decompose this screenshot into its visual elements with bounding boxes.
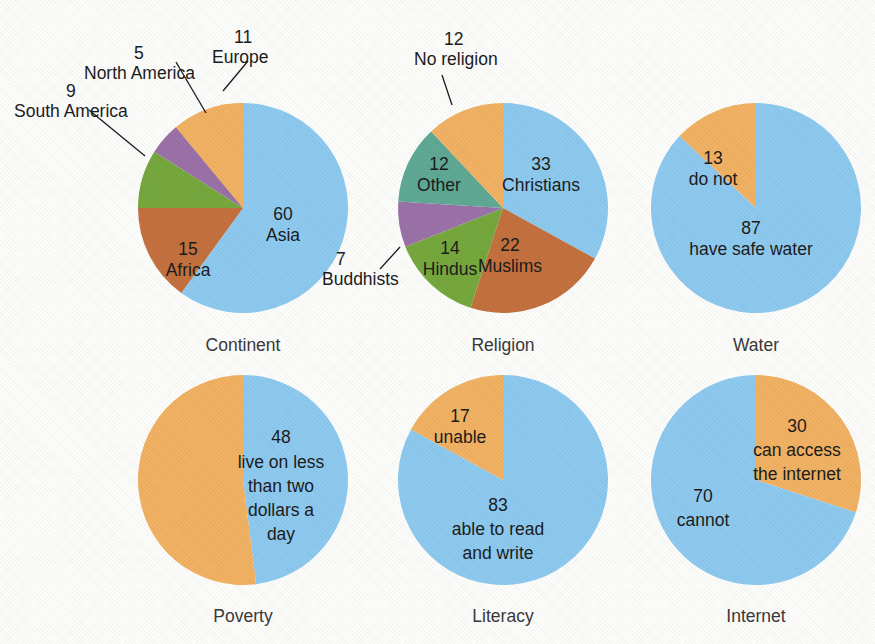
europe-text: Europe <box>212 47 268 67</box>
chart-literacy: 17 unable 83 able to read and write <box>398 375 608 585</box>
caption-continent: Continent <box>153 335 333 356</box>
water-have-number: 87 <box>741 218 760 238</box>
slice-poverty-remainder[interactable] <box>138 375 256 585</box>
caption-water: Water <box>666 335 846 356</box>
literacy-unable-label: unable <box>434 427 487 447</box>
label-south-america: 9 South America <box>14 82 189 122</box>
religion-muslims-number: 22 <box>500 235 519 255</box>
internet-cannot-label: cannot <box>677 510 730 530</box>
poverty-line4: day <box>267 524 295 544</box>
caption-internet: Internet <box>666 606 846 627</box>
internet-access-number: 30 <box>787 416 807 436</box>
label-europe: 11 Europe <box>212 28 302 68</box>
caption-poverty: Poverty <box>153 606 333 627</box>
internet-access-line2: the internet <box>753 464 841 484</box>
label-no-religion: 12 No religion <box>414 30 554 70</box>
internet-pie-svg: 30 can access the internet 70 cannot <box>651 375 861 585</box>
water-have-label: have safe water <box>689 239 813 259</box>
continent-asia-label: Asia <box>266 225 300 245</box>
continent-africa-number: 15 <box>178 239 197 259</box>
religion-other-number: 12 <box>429 154 448 174</box>
south-america-number: 9 <box>14 82 189 102</box>
continent-asia-number: 60 <box>273 204 293 224</box>
caption-literacy: Literacy <box>413 606 593 627</box>
poverty-line3: dollars a <box>248 500 314 520</box>
continent-pie-svg: 60 Asia 15 Africa <box>138 103 348 313</box>
no-religion-text: No religion <box>414 49 498 69</box>
poverty-pie-svg: 48 live on less than two dollars a day <box>138 375 348 585</box>
literacy-pie-svg: 17 unable 83 able to read and write <box>398 375 608 585</box>
literacy-able-line2: and write <box>462 543 533 563</box>
buddhists-number: 7 <box>322 250 447 270</box>
poverty-line1: live on less <box>238 452 325 472</box>
water-donot-label: do not <box>689 169 738 189</box>
chart-water: 13 do not 87 have safe water <box>651 103 861 313</box>
europe-number: 11 <box>212 28 302 48</box>
internet-access-line1: can access <box>753 440 841 460</box>
religion-christians-label: Christians <box>502 175 580 195</box>
literacy-unable-number: 17 <box>450 406 469 426</box>
literacy-able-line1: able to read <box>452 519 544 539</box>
internet-cannot-number: 70 <box>693 486 713 506</box>
chart-internet: 30 can access the internet 70 cannot <box>651 375 861 585</box>
south-america-text: South America <box>14 101 128 121</box>
religion-muslims-label: Muslims <box>478 256 542 276</box>
literacy-able-number: 83 <box>488 495 507 515</box>
caption-religion: Religion <box>413 335 593 356</box>
poverty-line2: than two <box>248 476 314 496</box>
water-donot-number: 13 <box>703 148 722 168</box>
chart-poverty: 48 live on less than two dollars a day <box>138 375 348 585</box>
religion-other-label: Other <box>417 175 461 195</box>
continent-africa-label: Africa <box>166 260 211 280</box>
label-buddhists: 7 Buddhists <box>322 250 447 290</box>
north-america-text: North America <box>84 63 195 83</box>
buddhists-text: Buddhists <box>322 269 399 289</box>
no-religion-number: 12 <box>414 30 554 50</box>
water-pie-svg: 13 do not 87 have safe water <box>651 103 861 313</box>
poverty-number: 48 <box>271 427 290 447</box>
religion-christians-number: 33 <box>531 154 550 174</box>
pie-chart-figure: 60 Asia 15 Africa 9 South America 5 Nort… <box>0 0 875 644</box>
chart-continent: 60 Asia 15 Africa <box>138 103 348 313</box>
